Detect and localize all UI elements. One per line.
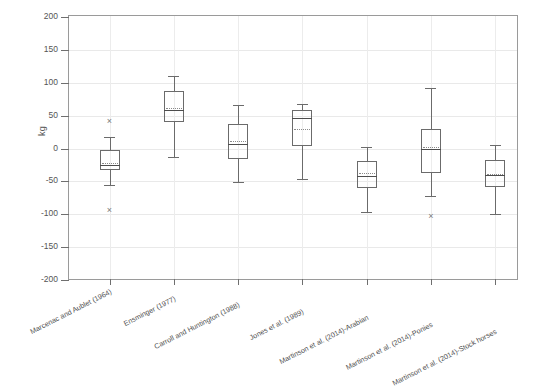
outlier-marker: × [106, 118, 113, 125]
whisker-cap-lower [104, 185, 115, 186]
y-tick-label: 200 [44, 11, 58, 21]
y-tick-label: -50 [46, 175, 58, 185]
whisker-upper [174, 76, 175, 91]
whisker-lower [238, 159, 239, 182]
whisker-cap-upper [233, 105, 244, 106]
gridline-horizontal [69, 149, 517, 150]
mean-line [230, 141, 246, 142]
median-line [485, 175, 505, 176]
y-tick-label: 100 [44, 77, 58, 87]
y-tick-mark [61, 181, 69, 182]
whisker-cap-upper [297, 104, 308, 105]
y-tick-mark [61, 83, 69, 84]
gridline-horizontal [69, 181, 517, 182]
whisker-cap-upper [168, 76, 179, 77]
y-tick-label: -150 [41, 241, 58, 251]
whisker-lower [302, 146, 303, 179]
gridline-horizontal [69, 50, 517, 51]
whisker-upper [431, 88, 432, 129]
box-iqr [100, 150, 120, 170]
whisker-cap-lower [297, 179, 308, 180]
y-tick-mark [61, 50, 69, 51]
y-tick-mark [61, 149, 69, 150]
whisker-lower [495, 187, 496, 213]
whisker-lower [110, 170, 111, 184]
x-axis-category-labels: Marcenac and Aublet (1964)Ensminger (197… [0, 281, 535, 365]
whisker-lower [367, 188, 368, 212]
y-tick-label: 0 [53, 143, 58, 153]
gridline-horizontal [69, 247, 517, 248]
whisker-cap-lower [233, 182, 244, 183]
y-tick-label: 50 [49, 110, 58, 120]
y-tick-mark [61, 247, 69, 248]
y-tick-label: 150 [44, 44, 58, 54]
whisker-cap-upper [104, 137, 115, 138]
whisker-cap-lower [425, 196, 436, 197]
box-iqr [421, 129, 441, 172]
y-tick-label: -100 [41, 208, 58, 218]
median-line [421, 149, 441, 150]
y-tick-mark [61, 116, 69, 117]
gridline-horizontal [69, 83, 517, 84]
mean-line [359, 173, 375, 174]
gridline-horizontal [69, 214, 517, 215]
plot-area: 200150100500-50-100-150-200 ××× [68, 15, 518, 280]
median-line [228, 144, 248, 145]
median-line [164, 110, 184, 111]
y-tick-mark [61, 214, 69, 215]
outlier-marker: × [106, 207, 113, 214]
whisker-cap-upper [361, 147, 372, 148]
median-line [292, 118, 312, 119]
y-axis-label: kg [37, 111, 47, 151]
whisker-lower [431, 173, 432, 196]
whisker-upper [110, 137, 111, 151]
whisker-cap-lower [361, 212, 372, 213]
whisker-upper [367, 147, 368, 161]
whisker-cap-upper [490, 145, 501, 146]
whisker-upper [238, 105, 239, 123]
whisker-cap-lower [490, 214, 501, 215]
outlier-marker: × [427, 213, 434, 220]
y-tick-mark [61, 17, 69, 18]
mean-line [166, 108, 182, 109]
mean-line [294, 129, 310, 130]
whisker-cap-lower [168, 157, 179, 158]
whisker-lower [174, 122, 175, 157]
mean-line [102, 163, 118, 164]
whisker-upper [495, 145, 496, 161]
mean-line [423, 147, 439, 148]
box-iqr [164, 91, 184, 123]
median-line [100, 165, 120, 166]
whisker-cap-upper [425, 88, 436, 89]
median-line [357, 176, 377, 177]
